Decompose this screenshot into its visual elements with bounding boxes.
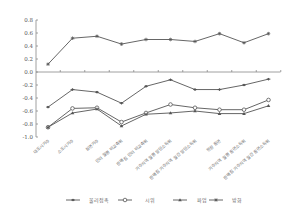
legend-item: 시위 xyxy=(118,197,155,204)
point-marker-icon xyxy=(243,84,245,86)
y-axis: 0.80.60.40.20.0-0.2-0.4-0.6-0.8-1.0 xyxy=(22,17,38,140)
point-marker-icon xyxy=(169,79,171,81)
category-label: 소도시거주 xyxy=(56,137,76,155)
star-marker-icon xyxy=(218,32,222,36)
line-chart: 0.80.60.40.20.0-0.2-0.4-0.6-0.8-1.0 대도시거… xyxy=(0,0,298,218)
point-marker-icon xyxy=(194,88,196,90)
point-marker-icon xyxy=(96,91,98,93)
legend: 물리접촉시위파업방화 xyxy=(66,197,242,204)
y-tick-label: 0.2 xyxy=(24,56,33,62)
circle-marker-icon xyxy=(267,98,271,102)
series-group xyxy=(46,32,271,129)
star-marker-icon xyxy=(267,32,271,36)
star-marker-icon xyxy=(214,198,218,202)
y-tick-label: 0.8 xyxy=(24,17,33,23)
circle-marker-icon xyxy=(218,108,222,112)
category-labels: 대도시거주소도시거주읍면거주인터 월평 비교축위판매점 인터 비교축위거주지역 … xyxy=(31,137,271,181)
series-line xyxy=(48,34,269,65)
point-marker-icon xyxy=(72,199,74,201)
category-label: 판매점 거주지역 월간 말단소득위 xyxy=(148,137,198,181)
y-tick-label: -0.6 xyxy=(22,108,33,114)
series-diamond xyxy=(46,78,271,108)
category-label: 판매점 거주지역 월간 흡연소득위 xyxy=(221,137,271,181)
legend-label: 물리접촉 xyxy=(89,197,109,204)
triangle-marker-icon xyxy=(267,104,271,107)
circle-marker-icon xyxy=(71,107,75,111)
category-label: 현장 흡연 xyxy=(205,137,222,153)
star-marker-icon xyxy=(120,42,124,46)
y-tick-label: -0.8 xyxy=(22,121,33,127)
series-line xyxy=(48,79,269,107)
point-marker-icon xyxy=(218,88,220,90)
star-marker-icon xyxy=(71,36,75,40)
legend-item: 파업 xyxy=(173,197,207,204)
y-tick-label: -0.2 xyxy=(22,82,33,88)
circle-marker-icon xyxy=(242,108,246,112)
circle-marker-icon xyxy=(120,120,124,124)
star-marker-icon xyxy=(169,38,173,42)
y-tick-label: -1.0 xyxy=(22,134,33,140)
star-marker-icon xyxy=(144,38,148,42)
y-tick-label: -0.4 xyxy=(22,95,33,101)
category-label: 읍면거주 xyxy=(84,137,101,153)
series-star xyxy=(46,32,270,66)
star-marker-icon xyxy=(193,40,197,44)
point-marker-icon xyxy=(71,88,73,90)
series-triangle xyxy=(46,104,270,129)
circle-marker-icon xyxy=(123,198,127,202)
x-axis xyxy=(36,70,281,72)
star-marker-icon xyxy=(242,41,246,45)
legend-item: 방화 xyxy=(209,197,242,204)
star-marker-icon xyxy=(95,34,99,38)
point-marker-icon xyxy=(267,78,269,80)
point-marker-icon xyxy=(47,106,49,108)
legend-label: 파업 xyxy=(197,197,207,204)
star-marker-icon xyxy=(46,62,50,66)
point-marker-icon xyxy=(145,85,147,87)
circle-marker-icon xyxy=(193,106,197,110)
circle-marker-icon xyxy=(169,103,173,107)
y-tick-label: 0.6 xyxy=(24,30,33,36)
legend-label: 방화 xyxy=(232,197,242,204)
y-tick-label: 0.0 xyxy=(24,69,33,75)
point-marker-icon xyxy=(120,102,122,104)
category-label: 대도시거주 xyxy=(31,137,51,155)
legend-item: 물리접촉 xyxy=(66,197,109,204)
y-tick-label: 0.4 xyxy=(24,43,33,49)
legend-label: 시위 xyxy=(145,197,155,204)
